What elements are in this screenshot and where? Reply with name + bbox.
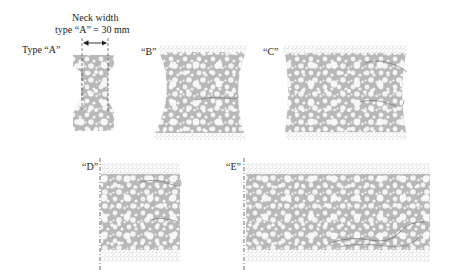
specimen-c <box>283 45 407 140</box>
specimen-e <box>244 158 430 272</box>
specimen-a <box>73 38 114 131</box>
specimen-b <box>153 45 248 140</box>
specimen-d <box>100 158 181 272</box>
specimen-diagram <box>0 0 449 280</box>
